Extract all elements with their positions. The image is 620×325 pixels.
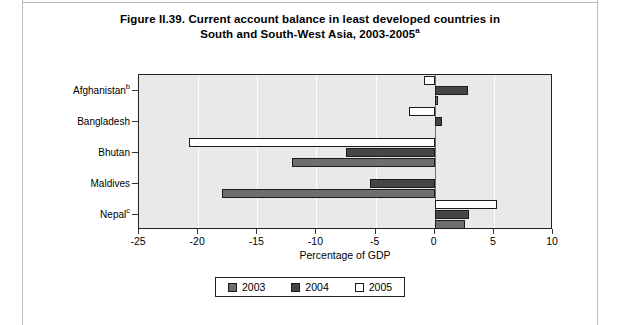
gridline (198, 75, 199, 228)
y-axis-label-afghanistan: Afghanistanb (73, 84, 130, 95)
x-axis-tick-label: -10 (295, 235, 335, 247)
bar (292, 158, 435, 167)
x-axis-tick-label: -15 (236, 235, 276, 247)
x-axis-tick (315, 229, 316, 234)
figure-title-line-1: Figure II.39. Current account balance in… (120, 13, 500, 25)
bar (424, 76, 435, 85)
x-axis-tick-label: 0 (414, 235, 454, 247)
chart-legend: 200320042005 (215, 277, 405, 297)
y-axis-tick (132, 214, 138, 215)
legend-label-2005: 2005 (369, 282, 392, 293)
figure-title-footnote-marker: a (415, 26, 420, 35)
page-rule-right (597, 0, 598, 325)
bar (435, 96, 439, 105)
figure-title-line-2: South and South-West Asia, 2003-2005 (200, 28, 415, 40)
x-axis-tick (493, 229, 494, 234)
y-axis-label-nepal: Nepalc (100, 208, 130, 219)
legend-swatch-2003 (228, 283, 237, 292)
bar (435, 200, 498, 209)
x-axis-tick-label: 10 (532, 235, 572, 247)
legend-label-2003: 2003 (242, 282, 265, 293)
y-axis-label-footnote-marker: b (126, 82, 130, 91)
y-axis-tick (132, 121, 138, 122)
figure-container: Figure II.39. Current account balance in… (0, 0, 620, 325)
y-axis-tick (132, 90, 138, 91)
bar (222, 189, 435, 198)
x-axis-tick (197, 229, 198, 234)
bar (435, 86, 468, 95)
x-axis-tick-label: -20 (177, 235, 217, 247)
plot-area (138, 74, 552, 229)
x-axis-tick (434, 229, 435, 234)
legend-entry-2003: 2003 (228, 282, 265, 293)
x-axis-tick-label: -5 (355, 235, 395, 247)
gridline (316, 75, 317, 228)
bar (435, 210, 469, 219)
x-axis-tick-label: -25 (118, 235, 158, 247)
y-axis-label-text: Bangladesh (77, 115, 130, 126)
y-axis-tick (132, 183, 138, 184)
x-axis-title: Percentage of GDP (138, 249, 552, 261)
y-axis-label-bangladesh: Bangladesh (77, 115, 130, 126)
x-axis-tick-label: 5 (473, 235, 513, 247)
bar (346, 148, 435, 157)
x-axis-tick (256, 229, 257, 234)
legend-entry-2005: 2005 (355, 282, 392, 293)
bar (370, 179, 435, 188)
y-axis-label-maldives: Maldives (91, 177, 130, 188)
x-axis-tick (375, 229, 376, 234)
y-axis-label-text: Maldives (91, 177, 130, 188)
legend-label-2004: 2004 (305, 282, 328, 293)
y-axis-label-text: Afghanistan (73, 84, 126, 95)
legend-swatch-2004 (291, 283, 300, 292)
bar (409, 107, 435, 116)
x-axis-tick (138, 229, 139, 234)
page-rule-top (22, 2, 598, 3)
y-axis-label-bhutan: Bhutan (98, 146, 130, 157)
y-axis-label-text: Nepal (100, 208, 126, 219)
y-axis-label-footnote-marker: c (126, 206, 130, 215)
y-axis-label-text: Bhutan (98, 146, 130, 157)
x-axis-tick (552, 229, 553, 234)
bar (435, 220, 466, 229)
bar (189, 138, 435, 147)
legend-swatch-2005 (355, 283, 364, 292)
gridline (257, 75, 258, 228)
figure-title: Figure II.39. Current account balance in… (60, 12, 560, 42)
bar (435, 117, 442, 126)
y-axis-labels: AfghanistanbBangladeshBhutanMaldivesNepa… (0, 74, 130, 229)
legend-entry-2004: 2004 (291, 282, 328, 293)
y-axis-tick (132, 152, 138, 153)
